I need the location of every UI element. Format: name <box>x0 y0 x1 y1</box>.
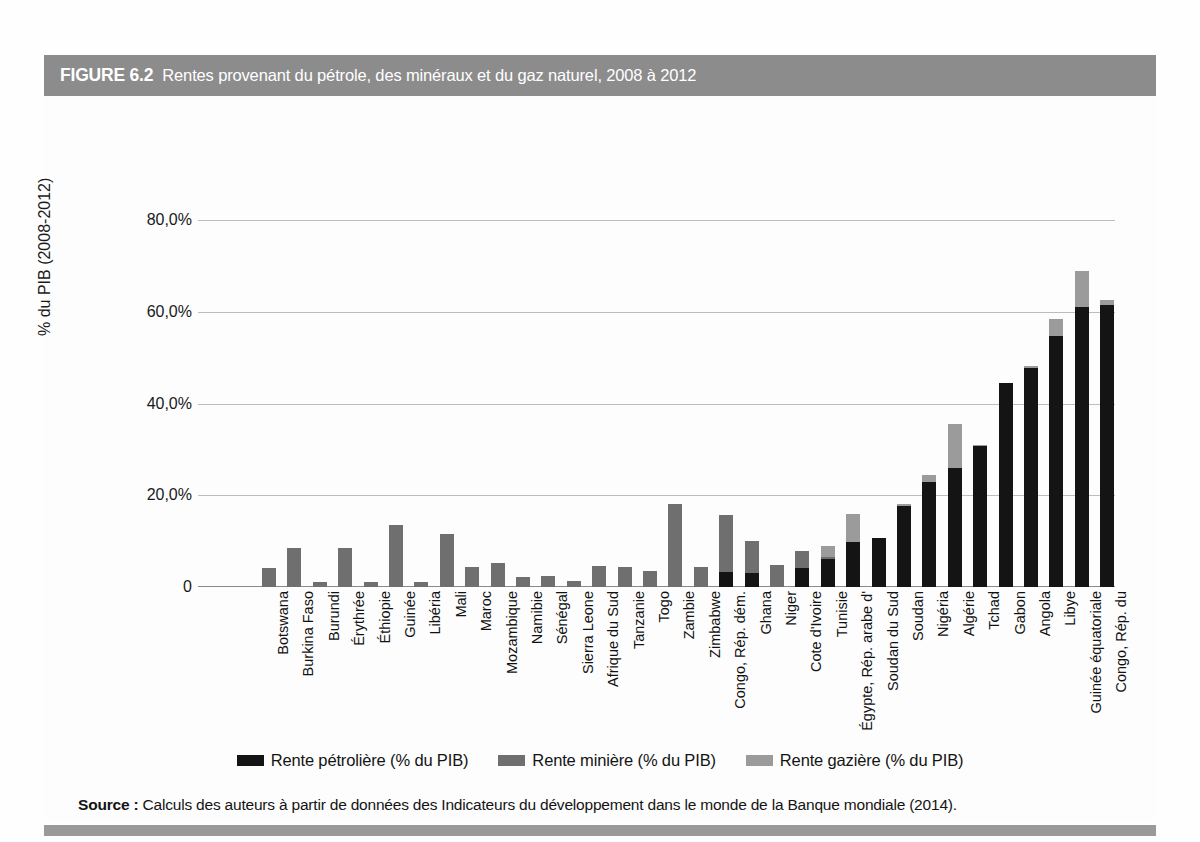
bar-group[interactable] <box>770 565 784 587</box>
bar-segment-oil <box>948 468 962 587</box>
bar-group[interactable] <box>262 568 276 587</box>
bar-group[interactable] <box>414 582 428 588</box>
x-tick-label: Cote d'Ivoire <box>808 591 824 672</box>
bar-group[interactable] <box>668 504 682 587</box>
x-tick-label: Congo, Rép. du <box>1113 591 1129 693</box>
bar-segment-oil <box>1075 307 1089 587</box>
bar-group[interactable] <box>313 582 327 588</box>
x-tick-label: Burundi <box>326 591 342 641</box>
legend-label: Rente pétrolière (% du PIB) <box>271 751 469 770</box>
bar-group[interactable] <box>491 563 505 587</box>
bar-segment-mineral <box>745 541 759 573</box>
bar-group[interactable] <box>719 515 733 587</box>
bar-segment-oil <box>999 383 1013 587</box>
x-tick-label: Soudan <box>910 591 926 641</box>
bar-group[interactable] <box>287 548 301 587</box>
bar-segment-oil <box>922 482 936 588</box>
bar-series-container <box>198 220 1115 587</box>
x-tick-label: Libéria <box>427 591 443 635</box>
bar-group[interactable] <box>440 534 454 587</box>
legend-item[interactable]: Rente pétrolière (% du PIB) <box>237 751 469 770</box>
source-note: Source : Calculs des auteurs à partir de… <box>78 796 1128 814</box>
x-tick-label: Zambie <box>681 591 697 639</box>
source-label: Source : <box>78 796 138 813</box>
y-tick-label: 0 <box>183 578 192 596</box>
bar-segment-oil <box>795 568 809 587</box>
bar-segment-mineral <box>516 577 530 587</box>
bar-segment-mineral <box>541 576 555 587</box>
y-tick-label: 60,0% <box>147 303 192 321</box>
bar-segment-mineral <box>287 548 301 587</box>
bar-group[interactable] <box>364 582 378 588</box>
bar-group[interactable] <box>1075 271 1089 587</box>
bar-segment-mineral <box>465 567 479 587</box>
x-tick-label: Niger <box>783 591 799 626</box>
bar-segment-oil <box>973 446 987 587</box>
x-tick-label: Togo <box>656 591 672 622</box>
bar-segment-oil <box>897 506 911 587</box>
bar-segment-oil <box>1049 336 1063 587</box>
legend-item[interactable]: Rente minière (% du PIB) <box>498 751 715 770</box>
bar-segment-mineral <box>668 504 682 587</box>
bar-segment-mineral <box>440 534 454 587</box>
bar-group[interactable] <box>872 538 886 587</box>
bar-group[interactable] <box>922 475 936 587</box>
bar-group[interactable] <box>618 567 632 587</box>
figure-card: FIGURE 6.2 Rentes provenant du pétrole, … <box>44 55 1156 820</box>
x-tick-label: Égypte, Rép. arabe d' <box>859 591 875 731</box>
bar-segment-mineral <box>364 582 378 588</box>
bar-group[interactable] <box>694 567 708 587</box>
bar-group[interactable] <box>338 548 352 587</box>
bar-group[interactable] <box>973 445 987 587</box>
x-tick-label: Érythrée <box>351 591 367 646</box>
bar-group[interactable] <box>1049 319 1063 587</box>
chart-region: % du PIB (2008-2012) 020,0%40,0%60,0%80,… <box>44 96 1156 820</box>
y-tick-label: 20,0% <box>147 486 192 504</box>
bar-group[interactable] <box>592 566 606 587</box>
bar-group[interactable] <box>643 571 657 587</box>
footer-rule <box>44 825 1156 836</box>
bar-group[interactable] <box>567 581 581 587</box>
bar-segment-gas <box>821 546 835 557</box>
chart-legend: Rente pétrolière (% du PIB)Rente minière… <box>44 751 1156 770</box>
bar-segment-mineral <box>643 571 657 587</box>
bar-segment-oil <box>872 538 886 587</box>
bar-group[interactable] <box>999 383 1013 587</box>
bar-group[interactable] <box>465 567 479 587</box>
x-tick-label: Zimbabwe <box>707 591 723 658</box>
bar-segment-mineral <box>491 563 505 587</box>
bar-group[interactable] <box>846 514 860 587</box>
bar-group[interactable] <box>541 576 555 587</box>
bar-segment-mineral <box>262 568 276 587</box>
x-tick-label: Tunisie <box>834 591 850 637</box>
x-tick-label: Éthiopie <box>377 591 393 643</box>
bar-segment-gas <box>922 475 936 482</box>
bar-group[interactable] <box>795 551 809 587</box>
bar-group[interactable] <box>821 546 835 587</box>
bar-group[interactable] <box>897 504 911 587</box>
legend-item[interactable]: Rente gazière (% du PIB) <box>746 751 964 770</box>
bar-group[interactable] <box>389 525 403 587</box>
x-tick-label: Burkina Faso <box>300 591 316 676</box>
bar-segment-gas <box>846 514 860 542</box>
x-tick-label: Maroc <box>478 591 494 631</box>
x-tick-label: Sénégal <box>554 591 570 644</box>
legend-swatch-gas <box>746 755 773 766</box>
y-axis-tick-labels: 020,0%40,0%60,0%80,0% <box>44 220 192 587</box>
x-tick-label: Angola <box>1037 591 1053 636</box>
bar-segment-gas <box>1049 319 1063 336</box>
bar-segment-mineral <box>567 581 581 587</box>
x-tick-label: Algérie <box>961 591 977 636</box>
bar-group[interactable] <box>516 577 530 587</box>
x-tick-label: Tchad <box>986 591 1002 630</box>
bar-segment-oil <box>846 542 860 587</box>
bar-group[interactable] <box>948 424 962 587</box>
bar-segment-gas <box>948 424 962 468</box>
x-tick-label: Namibie <box>529 591 545 644</box>
bar-group[interactable] <box>1100 300 1114 587</box>
legend-label: Rente gazière (% du PIB) <box>780 751 964 770</box>
bar-group[interactable] <box>1024 366 1038 587</box>
legend-label: Rente minière (% du PIB) <box>532 751 715 770</box>
bar-group[interactable] <box>745 541 759 587</box>
x-tick-label: Nigéria <box>935 591 951 637</box>
